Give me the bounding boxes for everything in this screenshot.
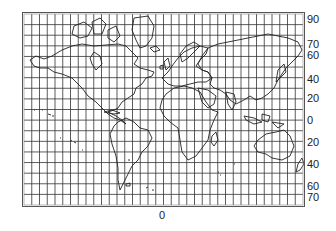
- latitude-label: 0: [307, 115, 313, 126]
- latitude-label: 90: [307, 14, 319, 25]
- british-isles-outline: [160, 58, 170, 70]
- map-graphic: [22, 12, 305, 207]
- south-america-outline: [110, 118, 152, 190]
- graticule-grid: [24, 14, 303, 205]
- latitude-label: 20: [307, 93, 319, 104]
- madagascar-outline: [211, 132, 218, 146]
- arabia-outline: [198, 88, 216, 108]
- africa-outline: [160, 86, 218, 160]
- arctic-islands-outline: [72, 18, 120, 42]
- world-map: [22, 12, 305, 207]
- longitude-label: 0: [159, 210, 165, 221]
- iceland-outline: [150, 46, 160, 52]
- latitude-label: 40: [307, 159, 319, 170]
- greenland-outline: [132, 16, 154, 48]
- north-america-outline: [30, 44, 154, 124]
- coastlines: [30, 16, 304, 190]
- latitude-label: 40: [307, 74, 319, 85]
- latitude-label: 60: [307, 50, 319, 61]
- latitude-label: 20: [307, 137, 319, 148]
- asia-outline: [198, 34, 302, 104]
- australia-outline: [254, 130, 294, 160]
- scandinavia-outline: [180, 42, 200, 62]
- latitude-label: 70: [307, 192, 319, 203]
- falkland-islands-outline: [126, 183, 130, 186]
